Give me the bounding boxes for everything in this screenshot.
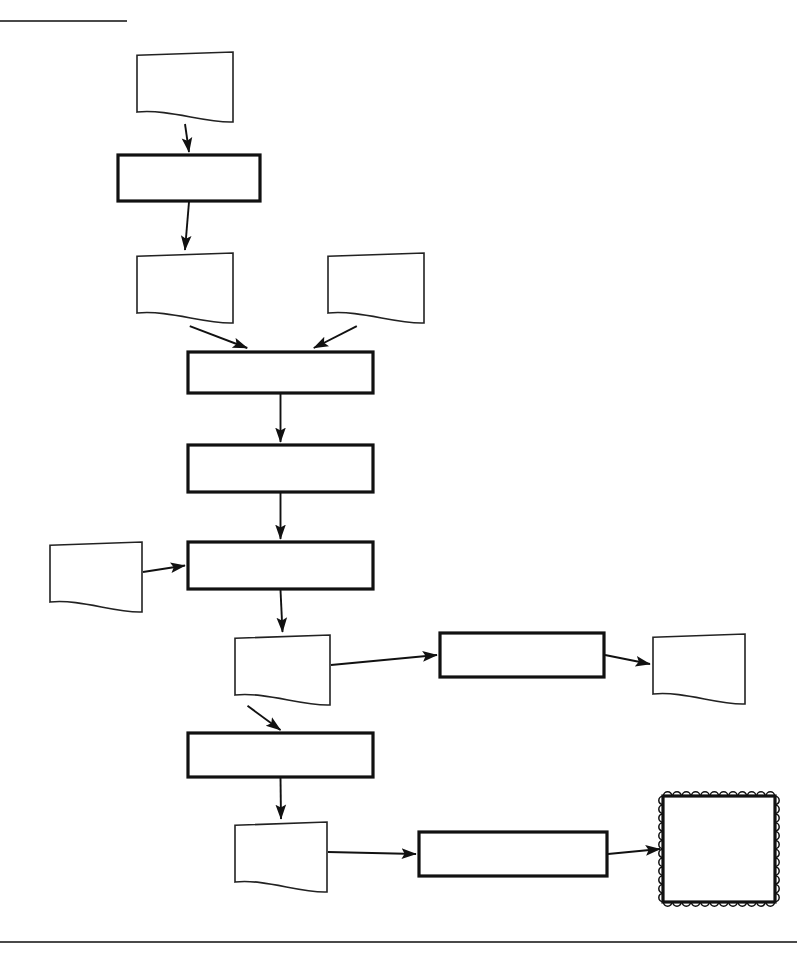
document-shape <box>50 542 142 612</box>
document-shape <box>328 253 424 323</box>
node-par[interactable] <box>188 542 373 589</box>
node-gsm[interactable] <box>137 52 233 122</box>
document-shape <box>235 822 327 892</box>
node-mapping[interactable] <box>188 445 373 492</box>
document-shape <box>235 635 330 705</box>
node-prog[interactable] <box>419 832 607 876</box>
process-box <box>188 352 373 393</box>
node-genbit[interactable] <box>188 733 373 777</box>
node-static[interactable] <box>440 633 604 677</box>
process-box <box>419 832 607 876</box>
edge-vhd-to-synthesis <box>314 326 357 348</box>
edge-gsm-to-assembler <box>185 124 189 152</box>
nodes-layer <box>50 52 779 906</box>
node-report[interactable] <box>653 634 745 704</box>
document-shape <box>653 634 745 704</box>
node-fpga[interactable] <box>659 792 779 906</box>
process-box <box>440 633 604 677</box>
edge-par-to-ncd <box>281 590 283 632</box>
fpga-package-body <box>663 796 775 902</box>
edge-dat-to-synthesis <box>190 326 247 348</box>
edge-prog-to-fpga <box>608 849 660 854</box>
node-ncd[interactable] <box>235 635 330 705</box>
process-box <box>188 733 373 777</box>
document-shape <box>137 52 233 122</box>
node-vhd[interactable] <box>328 253 424 323</box>
document-shape <box>137 253 233 323</box>
process-box <box>188 445 373 492</box>
edge-static-to-report <box>605 655 650 664</box>
flowchart-canvas <box>0 0 797 954</box>
node-dat[interactable] <box>137 253 233 323</box>
node-assembler[interactable] <box>118 155 260 201</box>
edge-ncd-to-static <box>331 655 437 665</box>
edge-pcf-to-par <box>143 566 185 573</box>
node-pcf[interactable] <box>50 542 142 612</box>
node-bit[interactable] <box>235 822 327 892</box>
edge-ncd-to-genbit <box>248 706 281 730</box>
process-box <box>118 155 260 201</box>
fpga-design-flow-diagram <box>0 0 797 954</box>
process-box <box>188 542 373 589</box>
node-synthesis[interactable] <box>188 352 373 393</box>
edge-genbit-to-bit <box>281 778 282 819</box>
edge-assembler-to-dat <box>185 202 189 250</box>
edge-bit-to-prog <box>328 852 416 854</box>
